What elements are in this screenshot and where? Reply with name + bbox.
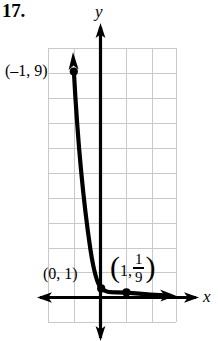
fraction-numerator: 1 <box>133 252 145 266</box>
point-0-1 <box>97 284 105 292</box>
fraction-one-ninth: 1 9 <box>133 252 145 284</box>
close-paren: ) <box>146 252 156 282</box>
point-label-neg1-9: (–1, 9) <box>5 62 48 80</box>
graph-canvas <box>0 0 218 341</box>
exponential-decay-graph-figure: 17. y x (–1, 9) (0, 1) ( 1, 1 9 ) <box>0 0 218 341</box>
fraction-denominator: 9 <box>133 270 145 284</box>
point-label-1-oneninth: ( 1, 1 9 ) <box>110 252 156 284</box>
point-neg1-9 <box>70 67 78 75</box>
problem-number: 17. <box>2 0 25 22</box>
y-axis-label: y <box>95 3 103 20</box>
open-paren: ( <box>110 252 120 282</box>
y-axis <box>96 23 106 341</box>
x-coordinate: 1, <box>120 263 132 279</box>
point-1-oneninth <box>122 288 130 296</box>
x-axis-label: x <box>203 288 211 305</box>
point-label-0-1: (0, 1) <box>43 265 78 283</box>
